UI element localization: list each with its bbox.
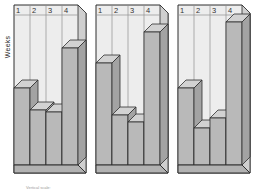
- panel-2-bar-4: [144, 24, 168, 165]
- panel-3-bar-4: [226, 14, 250, 165]
- panel-1-base: [14, 165, 86, 173]
- y-axis-label-group: Weeks: [4, 36, 11, 59]
- panel-2-bar-label-2: 2: [114, 6, 118, 15]
- panel-1-bar-4: [62, 40, 86, 165]
- panel-3-base: [178, 165, 250, 173]
- panel-3-bar-label-1: 1: [180, 6, 184, 15]
- chart-panel-3: 1 2 3 4: [178, 5, 250, 173]
- panel-2-bar-label-1: 1: [98, 6, 102, 15]
- panel-1-bar-label-4: 4: [64, 6, 68, 15]
- panel-2-bar-label-4: 4: [146, 6, 150, 15]
- panel-1-bar-label-2: 2: [32, 6, 36, 15]
- panel-3-bar-label-4: 4: [228, 6, 232, 15]
- y-axis-label: Weeks: [4, 36, 11, 59]
- panel-3-bar-label-2: 2: [196, 6, 200, 15]
- panel-2-bar-label-3: 3: [130, 6, 134, 15]
- chart-panel-1: 1 2 3 4: [14, 5, 86, 173]
- panel-1-bar-label-3: 3: [48, 6, 52, 15]
- panel-2-base: [96, 165, 168, 173]
- chart-panel-2: 1 2 3 4: [96, 5, 168, 173]
- panel-3-bar-label-3: 3: [212, 6, 216, 15]
- panel-1-bar-label-1: 1: [16, 6, 20, 15]
- figure-caption: Vertical scale:: [26, 185, 51, 190]
- three-dimensional-bar-chart-figure: Weeks: [0, 0, 253, 193]
